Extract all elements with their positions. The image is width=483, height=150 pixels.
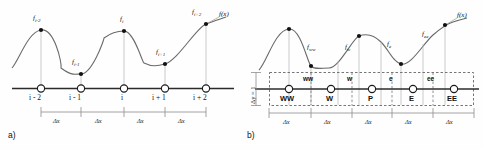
sample-point-a (79, 72, 83, 76)
sample-point-b (309, 64, 313, 68)
panel-a-finite-difference: fi-2 fi-1 fi fi+1 fi+2 f(x) i - 2 i - 1 … (0, 0, 241, 150)
grid-node-p (368, 85, 375, 92)
panel-b-finite-volume: fww fw fe fee f(x) Δy = 1 ww w e ee WW W… (241, 0, 483, 150)
sample-point-b (287, 27, 291, 31)
node-label-i-plus-2: i + 2 (193, 94, 207, 102)
node-label-ww: WW (280, 95, 294, 103)
node-label-i-plus-1: i + 1 (152, 94, 166, 102)
spacing-label-dx-b: Δx (283, 119, 290, 126)
face-label-ee: ee (427, 76, 434, 83)
spacing-label-dx-b: Δx (446, 119, 453, 126)
sample-label-f-i-plus-1: fi+1 (156, 49, 165, 57)
spacing-label-dx-a: Δx (137, 118, 144, 125)
grid-node-a (161, 85, 168, 92)
spacing-label-dx-a: Δx (53, 118, 60, 125)
sample-label-f-i-minus-1: fi-1 (72, 59, 80, 67)
face-label-w: w (347, 76, 352, 83)
node-label-p: P (368, 95, 373, 103)
grid-node-ee (450, 85, 457, 92)
figure-container: fi-2 fi-1 fi fi+1 fi+2 f(x) i - 2 i - 1 … (0, 0, 483, 150)
grid-node-a (77, 85, 84, 92)
panel-tag-b: b) (247, 131, 255, 140)
sample-point-a (122, 29, 126, 33)
spacing-label-dx-b: Δx (405, 119, 412, 126)
sample-label-f-ee: fee (422, 31, 428, 39)
spacing-label-dx-a: Δx (95, 118, 102, 125)
curve-fx-a (12, 17, 226, 74)
curve-fx-b (259, 18, 467, 70)
sample-label-f-i-minus-2: fi-2 (33, 15, 41, 23)
face-label-e: e (389, 76, 393, 83)
curve-label-fx-a: f(x) (219, 11, 229, 18)
panel-tag-a: a) (8, 131, 16, 140)
sample-point-a (39, 28, 43, 32)
panel-b-graphics (241, 0, 483, 150)
node-label-ee: EE (447, 95, 457, 103)
sample-label-f-i: fi (120, 16, 123, 24)
cell-height-label-dy: Δy = 1 (250, 86, 257, 104)
face-label-ww: ww (303, 76, 313, 83)
grid-node-a (202, 85, 209, 92)
spacing-label-dx-b: Δx (324, 119, 331, 126)
sample-point-a (163, 62, 167, 66)
sample-point-a (204, 22, 208, 26)
node-label-i-minus-1: i - 1 (69, 94, 81, 102)
sample-label-f-e: fe (387, 41, 391, 49)
node-label-e: E (409, 95, 414, 103)
spacing-label-dx-b: Δx (365, 119, 372, 126)
node-label-i-minus-2: i - 2 (29, 94, 41, 102)
sample-point-b (399, 62, 403, 66)
grid-node-ww (285, 85, 292, 92)
sample-point-b (443, 23, 447, 27)
grid-node-e (409, 85, 416, 92)
sample-label-f-i-plus-2: fi+2 (192, 9, 201, 17)
sample-label-f-w: fw (345, 44, 350, 52)
node-label-w: W (326, 95, 333, 103)
spacing-label-dx-a: Δx (178, 118, 185, 125)
sample-point-b (357, 34, 361, 38)
grid-node-a (120, 85, 127, 92)
node-label-i: i (121, 94, 123, 102)
sample-label-f-ww: fww (307, 44, 316, 52)
curve-label-fx-b: f(x) (457, 12, 467, 19)
grid-node-w (327, 85, 334, 92)
grid-node-a (37, 85, 44, 92)
